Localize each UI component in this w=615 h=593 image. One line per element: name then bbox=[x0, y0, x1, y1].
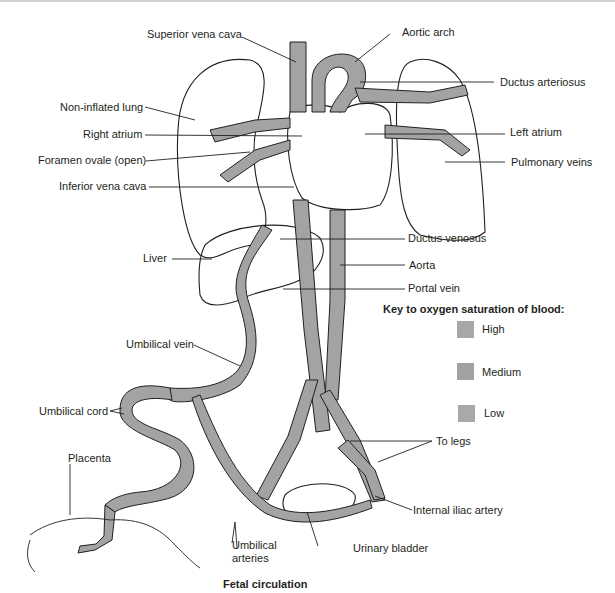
iliac-branch-left bbox=[256, 380, 318, 500]
label-superior-vena-cava: Superior vena cava bbox=[147, 28, 242, 41]
key-swatch-medium bbox=[457, 363, 474, 380]
descending-aorta bbox=[325, 210, 345, 400]
right-lung-outline bbox=[396, 59, 485, 240]
pulmonary-branches-left bbox=[210, 118, 290, 142]
label-aortic-arch: Aortic arch bbox=[402, 26, 455, 39]
pulmonary-branches-left-lower bbox=[220, 140, 290, 182]
aortic-arch bbox=[312, 54, 366, 112]
label-portal-vein: Portal vein bbox=[408, 282, 460, 295]
key-label-medium: Medium bbox=[482, 366, 521, 378]
label-urinary-bladder: Urinary bladder bbox=[353, 542, 428, 555]
label-non-inflated-lung: Non-inflated lung bbox=[60, 101, 143, 114]
label-right-atrium: Right atrium bbox=[83, 128, 142, 141]
figure-caption: Fetal circulation bbox=[223, 578, 307, 590]
key-swatch-high bbox=[457, 321, 474, 338]
label-placenta: Placenta bbox=[68, 452, 111, 465]
label-umbilical-vein: Umbilical vein bbox=[126, 338, 194, 351]
label-ductus-venosus: Ductus venosus bbox=[408, 232, 486, 245]
ductus-arteriosus bbox=[355, 85, 468, 103]
label-ductus-arteriosus: Ductus arteriosus bbox=[500, 76, 586, 89]
label-foramen-ovale: Foramen ovale (open) bbox=[38, 154, 146, 167]
umbilical-cord bbox=[105, 386, 194, 512]
label-internal-iliac-artery: Internal iliac artery bbox=[413, 504, 503, 517]
label-pulmonary-veins: Pulmonary veins bbox=[511, 156, 592, 169]
superior-vena-cava bbox=[290, 42, 306, 112]
key-title: Key to oxygen saturation of blood: bbox=[383, 303, 565, 315]
placenta-vessels bbox=[78, 505, 115, 553]
key-label-low: Low bbox=[484, 407, 504, 419]
label-liver: Liver bbox=[143, 252, 167, 265]
label-inferior-vena-cava: Inferior vena cava bbox=[59, 180, 146, 193]
key-label-high: High bbox=[482, 323, 505, 335]
umbilical-vein bbox=[170, 225, 272, 402]
label-umbilical-arteries-2: arteries bbox=[232, 552, 269, 565]
heart-outline bbox=[288, 103, 393, 209]
placenta-outline bbox=[30, 518, 200, 568]
key-swatch-low bbox=[458, 405, 475, 422]
label-umbilical-arteries-1: Umbilical bbox=[232, 539, 277, 552]
label-to-legs: To legs bbox=[436, 435, 471, 448]
label-left-atrium: Left atrium bbox=[510, 126, 562, 139]
label-aorta: Aorta bbox=[409, 259, 435, 272]
label-umbilical-cord: Umbilical cord bbox=[39, 405, 108, 418]
